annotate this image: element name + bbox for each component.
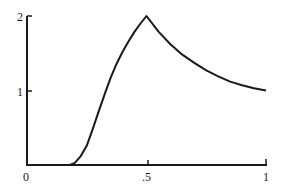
x-axis: 0 .5 1 (23, 159, 269, 184)
x-tick-label-05: .5 (142, 170, 151, 184)
line-chart: 2 1 0 .5 1 (0, 0, 282, 187)
y-axis: 2 1 (17, 10, 32, 165)
data-line (27, 16, 266, 165)
y-tick-label-1: 1 (17, 85, 23, 99)
y-tick-label-2: 2 (17, 10, 23, 24)
x-tick-label-0: 0 (23, 170, 29, 184)
x-tick-label-1: 1 (263, 170, 269, 184)
